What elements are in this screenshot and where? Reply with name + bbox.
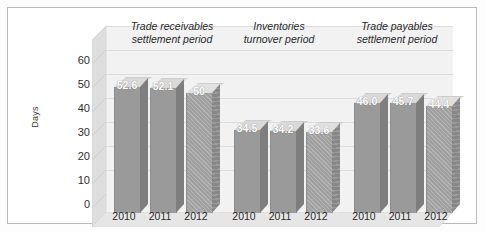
bar-value-label: 34.2 xyxy=(266,124,300,135)
bar-value-label: 45.7 xyxy=(386,96,420,107)
bar-face xyxy=(186,93,213,213)
group-title-line-1: Inventories xyxy=(224,20,334,33)
chart-page: Days 60 50 40 30 20 10 0 xyxy=(0,0,485,232)
bar-face xyxy=(390,103,417,213)
bar-value-label: 33.6 xyxy=(302,125,336,136)
bar-value-label: 50 xyxy=(182,86,216,97)
bar-side-face xyxy=(260,121,268,213)
bar-receivables-2011[interactable] xyxy=(150,88,176,213)
group-title-receivables: Trade receivables settlement period xyxy=(112,20,232,46)
bar-value-label: 44.4 xyxy=(422,99,456,110)
x-label-payables-2011: 2011 xyxy=(383,211,417,222)
bar-inventories-2010[interactable] xyxy=(234,130,260,213)
group-title-payables: Trade payables settlement period xyxy=(338,20,456,46)
y-tick-60: 60 xyxy=(64,55,90,66)
y-tick-50: 50 xyxy=(64,79,90,90)
group-title-line-1: Trade receivables xyxy=(112,20,232,33)
bar-side-face xyxy=(416,94,424,213)
bar-value-label: 46.0 xyxy=(350,96,384,107)
bar-side-face xyxy=(380,94,388,213)
bar-inventories-2012[interactable] xyxy=(306,132,332,213)
y-tick-30: 30 xyxy=(64,127,90,138)
group-title-line-2: settlement period xyxy=(112,33,232,46)
bar-face xyxy=(234,130,261,213)
bar-face xyxy=(150,88,177,213)
x-label-payables-2010: 2010 xyxy=(347,211,381,222)
bar-side-face xyxy=(212,84,220,213)
x-label-payables-2012: 2012 xyxy=(419,211,453,222)
x-label-receivables-2012: 2012 xyxy=(179,211,213,222)
bar-face xyxy=(270,131,297,213)
y-tick-20: 20 xyxy=(64,151,90,162)
x-label-inventories-2010: 2010 xyxy=(227,211,261,222)
group-title-inventories: Inventories turnover period xyxy=(224,20,334,46)
bar-face xyxy=(114,87,141,213)
plot-area: 52.6 52.1 50 34.5 xyxy=(92,26,453,218)
bar-receivables-2010[interactable] xyxy=(114,87,140,213)
bar-payables-2011[interactable] xyxy=(390,103,416,213)
y-tick-0: 0 xyxy=(64,199,90,210)
group-title-line-1: Trade payables xyxy=(338,20,456,33)
bar-face xyxy=(426,106,453,213)
bar-value-label: 52.1 xyxy=(146,81,180,92)
y-tick-40: 40 xyxy=(64,103,90,114)
group-title-line-2: settlement period xyxy=(338,33,456,46)
x-label-receivables-2011: 2011 xyxy=(143,211,177,222)
bar-receivables-2012[interactable] xyxy=(186,93,212,213)
bar-face xyxy=(306,132,333,213)
bar-value-label: 34.5 xyxy=(230,123,264,134)
gridline-50 xyxy=(106,50,453,51)
bar-payables-2010[interactable] xyxy=(354,103,380,213)
bar-side-face xyxy=(296,122,304,213)
bar-side-face xyxy=(140,78,148,213)
bar-face xyxy=(354,103,381,213)
bar-payables-2012[interactable] xyxy=(426,106,452,213)
bar-inventories-2011[interactable] xyxy=(270,131,296,213)
group-title-line-2: turnover period xyxy=(224,33,334,46)
x-label-receivables-2010: 2010 xyxy=(107,211,141,222)
chart-frame: Days 60 50 40 30 20 10 0 xyxy=(7,7,477,224)
y-axis-ticks: 60 50 40 30 20 10 0 xyxy=(60,8,90,232)
y-axis-title: Days xyxy=(30,87,40,147)
bar-side-face xyxy=(332,123,340,213)
x-label-inventories-2011: 2011 xyxy=(263,211,297,222)
x-label-inventories-2012: 2012 xyxy=(299,211,333,222)
y-tick-10: 10 xyxy=(64,175,90,186)
gridline-40 xyxy=(106,74,453,75)
bar-side-face xyxy=(176,79,184,213)
bar-value-label: 52.6 xyxy=(110,80,144,91)
bar-side-face xyxy=(452,97,460,213)
